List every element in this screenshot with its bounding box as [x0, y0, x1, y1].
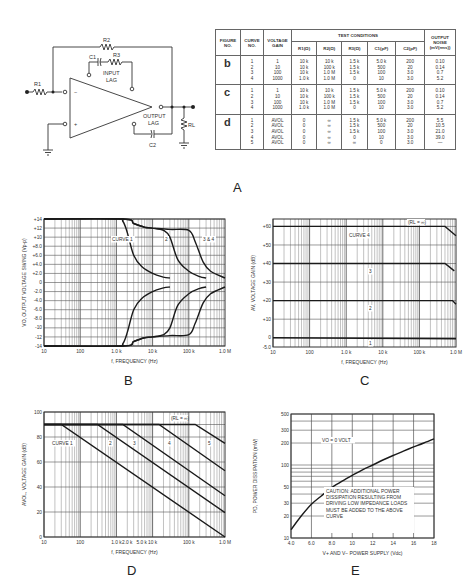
header-voltage-gain: VOLTAGE GAIN [264, 30, 292, 56]
table-cell-c2: 200203.03.0 [396, 85, 425, 114]
header-r1: R1(Ω) [292, 42, 317, 56]
header-figure-no: FIGURE NO. [216, 30, 241, 56]
svg-text:+20: +20 [263, 298, 271, 303]
svg-text:3: 3 [133, 441, 136, 446]
svg-text:10 k: 10 k [378, 350, 388, 355]
table-cell-c1: 5.0 k50010010 [367, 85, 396, 114]
svg-text:100: 100 [76, 540, 84, 545]
panel-label-c: C [360, 373, 369, 388]
svg-text:16: 16 [411, 541, 417, 546]
table-cell-c1: 5.0 k50010010 [367, 56, 396, 85]
svg-text:PD, POWER DISSIPATION (mW): PD, POWER DISSIPATION (mW) [252, 438, 258, 513]
svg-text:10 k: 10 k [148, 540, 158, 545]
svg-text:f, FREQUENCY (Hz): f, FREQUENCY (Hz) [111, 549, 158, 555]
svg-text:100: 100 [76, 349, 84, 354]
svg-text:12: 12 [370, 541, 376, 546]
header-c2: C2(pF) [396, 42, 425, 56]
plus-input-label: + [74, 121, 77, 127]
svg-text:VO = 0 VOLT: VO = 0 VOLT [322, 438, 351, 443]
svg-text:20: 20 [37, 510, 43, 515]
svg-text:10: 10 [284, 536, 290, 541]
figure-id: c [216, 85, 241, 114]
svg-text:10: 10 [41, 349, 47, 354]
svg-text:4: 4 [168, 441, 171, 446]
svg-text:-4.0: -4.0 [34, 298, 43, 303]
series-line [273, 301, 456, 305]
caution-note-line: DRIVING LOW IMPEDANCE LOADS [326, 501, 408, 506]
svg-text:2: 2 [369, 306, 372, 311]
header-test-conditions: TEST CONDITIONS [292, 30, 425, 42]
table-cell-gain: AVOLAVOLAVOLAVOLAVOL [264, 114, 292, 149]
table-cell-r1: 10 k10 k10 k1.0 k [292, 85, 317, 114]
svg-text:1.0 k: 1.0 k [341, 350, 352, 355]
svg-text:3 & 4: 3 & 4 [203, 237, 215, 242]
svg-text:100 k: 100 k [183, 540, 195, 545]
svg-text:100: 100 [34, 410, 42, 415]
svg-text:V+ AND V− POWER SUPPLY (Vdc): V+ AND V− POWER SUPPLY (Vdc) [323, 550, 403, 556]
svg-text:100: 100 [306, 350, 314, 355]
table-cell-c2: 200203.03.0 [396, 56, 425, 85]
svg-text:+30: +30 [263, 280, 271, 285]
table-cell-curve: 12345 [241, 114, 264, 149]
input-lag-label: INPUT [103, 70, 120, 76]
minus-input-label: − [74, 89, 77, 95]
svg-text:50: 50 [284, 485, 290, 490]
svg-text:2.0 k: 2.0 k [122, 540, 133, 545]
input-lag-label-2: LAG [106, 77, 117, 83]
svg-text:+12: +12 [34, 226, 42, 231]
output-lag-label: OUTPUT [143, 113, 166, 119]
panel-label-d: D [127, 563, 136, 578]
panel-label-b: B [124, 373, 133, 388]
chart-c-voltage-gain: +60+50+40+30+20+100-5.0101001.0 k10 k100… [238, 200, 476, 400]
svg-text:-14: -14 [35, 344, 42, 349]
svg-text:CURVE 1: CURVE 1 [112, 237, 133, 242]
svg-text:10: 10 [270, 350, 276, 355]
table-cell-c1: 5.0 k500100100 [367, 114, 396, 149]
svg-text:1.0 M: 1.0 M [450, 350, 462, 355]
svg-text:-2.0: -2.0 [34, 289, 43, 294]
svg-text:18: 18 [431, 541, 437, 546]
svg-text:0: 0 [39, 535, 42, 540]
svg-text:0: 0 [268, 335, 271, 340]
output-lag-label-2: LAG [148, 120, 159, 126]
svg-text:(RL = ∞): (RL = ∞) [408, 220, 426, 225]
svg-text:20: 20 [284, 514, 290, 519]
svg-text:f, FREQUENCY (Hz): f, FREQUENCY (Hz) [111, 358, 158, 364]
panel-label-e: E [351, 563, 360, 578]
svg-text:+50: +50 [263, 243, 271, 248]
series-line [44, 287, 225, 346]
table-cell-curve: 1234 [241, 85, 264, 114]
svg-text:100: 100 [281, 463, 289, 468]
svg-text:+6.0: +6.0 [33, 253, 43, 258]
caution-note-line: MUST BE ADDED TO THE ABOVE [326, 508, 404, 513]
svg-text:AV, VOLTAGE GAIN (dB): AV, VOLTAGE GAIN (dB) [250, 255, 256, 311]
svg-text:6.0: 6.0 [308, 541, 315, 546]
svg-text:14: 14 [390, 541, 396, 546]
svg-text:1.0 k: 1.0 k [111, 349, 122, 354]
c2-label: C2 [149, 142, 156, 148]
caution-note-line: DISSIPATION RESULTING FROM [326, 495, 401, 500]
svg-text:1.0 M: 1.0 M [219, 540, 231, 545]
svg-text:10: 10 [41, 540, 47, 545]
test-conditions-table: FIGURE NO. CURVE NO. VOLTAGE GAIN TEST C… [215, 29, 456, 150]
svg-text:8.0: 8.0 [329, 541, 336, 546]
svg-text:2: 2 [109, 441, 112, 446]
svg-text:10 k: 10 k [148, 349, 158, 354]
header-r2: R2(Ω) [317, 42, 342, 56]
svg-text:AVOL, VOLTAGE GAIN (dB): AVOL, VOLTAGE GAIN (dB) [21, 443, 27, 506]
r1-label: R1 [34, 81, 41, 87]
svg-text:5.0 k: 5.0 k [136, 540, 147, 545]
svg-text:-8.0: -8.0 [34, 316, 43, 321]
header-output-noise: OUTPUT NOISE (mV(rms)) [425, 30, 456, 56]
svg-text:+2.0: +2.0 [33, 271, 43, 276]
table-cell-gain: 1101001000 [264, 85, 292, 114]
rl-label: RL [188, 122, 195, 128]
table-cell-noise: 0.100.140.75.2 [425, 85, 456, 114]
table-cell-r1: 00000 [292, 114, 317, 149]
header-curve-no: CURVE NO. [241, 30, 264, 56]
svg-text:CURVE 4: CURVE 4 [349, 233, 370, 238]
series-line [44, 425, 225, 513]
svg-text:+14: +14 [34, 217, 42, 222]
svg-text:3: 3 [369, 269, 372, 274]
svg-text:5: 5 [208, 441, 211, 446]
